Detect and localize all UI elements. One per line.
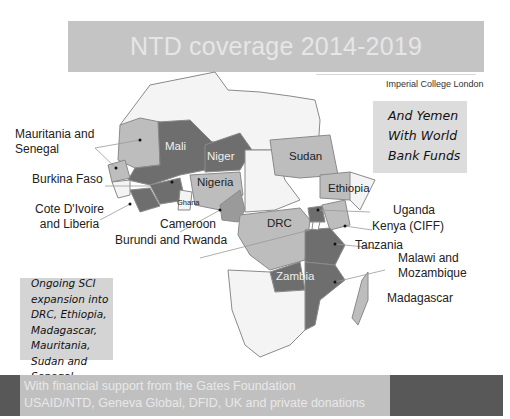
label-burundi-rwanda: Burundi and Rwanda [115,233,227,248]
map-label-ghana: Ghana [177,198,200,207]
map-label-mali: Mali [165,140,186,152]
funding-text: With financial support from the Gates Fo… [24,378,365,412]
region-guinea [112,180,130,198]
label-cote-divoire-liberia: Cote D'Ivoire and Liberia [35,202,104,232]
map-label-sudan: Sudan [289,150,322,162]
label-burkina-faso: Burkina Faso [32,172,103,187]
map-label-ethiopia: Ethiopia [328,182,370,194]
lake-victoria [312,222,320,230]
map-label-nigeria: Nigeria [197,176,233,188]
label-madagascar: Madagascar [387,291,453,306]
label-kenya: Kenya (CIFF) [372,219,444,234]
label-cameroon: Cameroon [160,217,216,232]
map-label-drc: DRC [267,217,292,229]
label-malawi-mozambique: Malawi and Mozambique [398,251,467,281]
label-uganda: Uganda [393,203,435,218]
yemen-callout-text: And Yemen With World Bank Funds [388,106,460,166]
sci-expansion-text: Ongoing SCI expansion into DRC, Ethiopia… [31,276,108,385]
label-tanzania: Tanzania [355,238,403,253]
region-tanzania [305,228,345,265]
map-label-zambia: Zambia [276,270,314,282]
label-mauritania-senegal: Mauritania and Senegal [15,127,94,157]
map-label-niger: Niger [207,150,234,162]
region-madagascar [352,272,368,325]
region-uganda [308,206,325,222]
